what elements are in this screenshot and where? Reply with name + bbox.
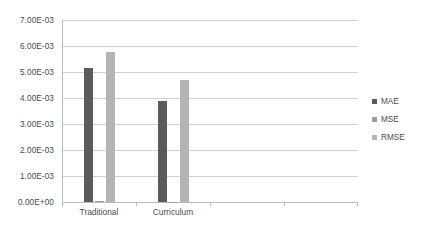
legend-item-mse: MSE — [372, 110, 422, 128]
x-axis-tick — [210, 202, 211, 206]
y-axis-tick-label: 1.00E-03 — [20, 172, 54, 181]
y-axis-tick-label: 4.00E-03 — [20, 94, 54, 103]
plot-area — [62, 20, 358, 202]
y-axis-tick-label: 2.00E-03 — [20, 146, 54, 155]
legend-label: MSE — [381, 115, 399, 124]
x-axis-category-label: Traditional — [80, 207, 119, 218]
legend-swatch-icon — [372, 117, 377, 122]
chart-legend: MAEMSERMSE — [372, 92, 422, 146]
x-axis-tick-marks — [62, 202, 358, 206]
bars-layer — [62, 20, 358, 202]
x-axis-tick — [136, 202, 137, 206]
x-axis-category-label: Curriculum — [153, 207, 194, 218]
legend-label: MAE — [381, 97, 399, 106]
y-axis-tick-label: 5.00E-03 — [20, 68, 54, 77]
x-axis-category-labels: TraditionalCurriculum — [62, 207, 358, 221]
legend-item-mae: MAE — [372, 92, 422, 110]
legend-swatch-icon — [372, 99, 377, 104]
bar-chart: 0.00E+001.00E-032.00E-033.00E-034.00E-03… — [0, 0, 423, 240]
y-axis-tick-labels: 0.00E+001.00E-032.00E-033.00E-034.00E-03… — [0, 0, 58, 240]
legend-label: RMSE — [381, 133, 405, 142]
bar-mae-curriculum — [158, 101, 167, 202]
y-axis-tick-label: 7.00E-03 — [20, 16, 54, 25]
x-axis-tick — [357, 202, 358, 206]
x-axis-tick — [284, 202, 285, 206]
bar-mae-traditional — [84, 68, 93, 202]
x-axis-tick — [62, 202, 63, 206]
y-axis-tick-label: 0.00E+00 — [18, 198, 54, 207]
y-axis-tick-label: 6.00E-03 — [20, 42, 54, 51]
y-axis-tick-label: 3.00E-03 — [20, 120, 54, 129]
bar-rmse-traditional — [106, 52, 115, 202]
bar-rmse-curriculum — [180, 80, 189, 202]
legend-swatch-icon — [372, 135, 377, 140]
legend-item-rmse: RMSE — [372, 128, 422, 146]
